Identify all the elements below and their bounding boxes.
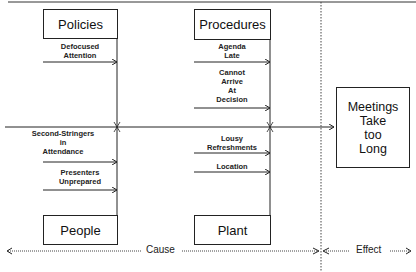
cause-axis-label: Cause xyxy=(142,244,179,255)
effect-axis-label: Effect xyxy=(352,244,385,255)
category-label: People xyxy=(60,223,100,238)
category-policies: Policies xyxy=(43,9,118,39)
cause-presenters-unprepared: Presenters Unprepared xyxy=(43,168,117,186)
category-plant: Plant xyxy=(194,215,271,245)
effect-box: Meetings Take too Long xyxy=(336,87,410,168)
cause-defocused-attention: Defocused Attention xyxy=(43,42,117,60)
category-label: Plant xyxy=(218,223,248,238)
cause-lousy-refreshments: Lousy Refreshments xyxy=(194,134,270,152)
cause-agenda-late: Agenda Late xyxy=(194,42,270,60)
category-people: People xyxy=(43,215,118,245)
category-label: Policies xyxy=(58,17,103,32)
category-label: Procedures xyxy=(199,17,265,32)
cause-second-stringers: Second-Stringers in Attendance xyxy=(10,129,116,156)
category-procedures: Procedures xyxy=(194,9,271,40)
effect-label: Meetings Take too Long xyxy=(348,100,399,156)
cause-location: Location xyxy=(194,162,270,171)
cause-cannot-arrive: Cannot Arrive At Decision xyxy=(194,68,270,104)
